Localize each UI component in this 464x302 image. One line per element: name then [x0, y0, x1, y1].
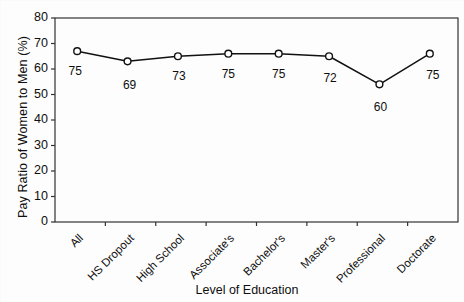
- data-point-label: 75: [426, 68, 439, 82]
- data-point-marker: [225, 50, 232, 57]
- chart-plot-area: [0, 0, 464, 302]
- data-point-marker: [426, 50, 433, 57]
- data-point-label: 72: [323, 71, 336, 85]
- data-point-label: 73: [172, 69, 185, 83]
- data-point-marker: [275, 50, 282, 57]
- x-axis-title: Level of Education: [0, 283, 464, 297]
- y-axis-tick-label: 20: [20, 163, 48, 177]
- y-axis-tick-label: 10: [20, 189, 48, 203]
- data-point-label: 75: [222, 67, 235, 81]
- data-point-marker: [376, 81, 383, 88]
- data-point-marker: [326, 53, 333, 60]
- data-point-label: 60: [374, 100, 387, 114]
- data-point-marker: [74, 48, 81, 55]
- y-axis-tick-label: 70: [20, 36, 48, 50]
- y-axis-tick-label: 40: [20, 112, 48, 126]
- y-axis-tick-label: 80: [20, 10, 48, 24]
- data-point-label: 75: [69, 64, 82, 78]
- data-point-label: 69: [123, 78, 136, 92]
- data-point-marker: [124, 58, 131, 65]
- data-point-label: 75: [272, 67, 285, 81]
- y-axis-tick-label: 50: [20, 87, 48, 101]
- y-axis-tick-label: 30: [20, 138, 48, 152]
- chart-figure: Pay Ratio of Women to Men (%) 0102030405…: [0, 0, 464, 302]
- plot-frame: [55, 18, 458, 222]
- y-axis-tick-label: 0: [20, 214, 48, 228]
- y-axis-tick-label: 60: [20, 61, 48, 75]
- data-point-marker: [175, 53, 182, 60]
